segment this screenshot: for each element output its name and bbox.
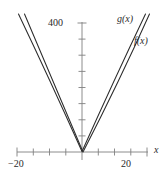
chart-figure: 400 −20 20 x g(x) f(x): [0, 0, 165, 174]
curve-f: [25, 14, 150, 152]
plot-area: [0, 0, 165, 174]
y-axis-tick-label-400: 400: [48, 18, 63, 28]
x-axis-name-label: x: [154, 145, 158, 155]
x-axis-tick-label-20: 20: [121, 159, 131, 169]
x-axis-tick-label-minus-20: −20: [8, 159, 24, 169]
curve-label-f: f(x): [134, 36, 148, 46]
curve-label-g: g(x): [117, 14, 133, 24]
